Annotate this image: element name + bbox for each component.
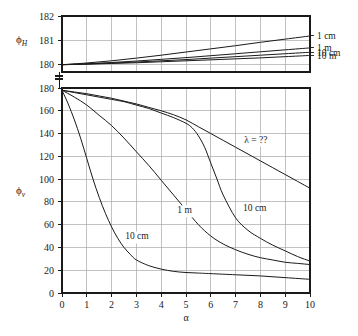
x-tick-label: 10	[305, 299, 315, 310]
right-label-3: 10 m	[317, 51, 337, 61]
annotation-1: 10 cm	[243, 203, 267, 213]
phi-vs-alpha-chart: 1801811820204060801001201401601800123456…	[0, 0, 358, 336]
x-tick-label: 2	[109, 299, 114, 310]
y-tick-label-upper: 180	[39, 59, 54, 70]
y-tick-label-lower: 80	[44, 196, 54, 207]
y-tick-label-lower: 140	[39, 128, 54, 139]
right-label-0: 1 cm	[317, 31, 336, 41]
y-tick-label-lower: 20	[44, 265, 54, 276]
y-tick-label-upper: 182	[39, 11, 54, 22]
y-tick-label-lower: 40	[44, 242, 54, 253]
x-tick-label: 6	[208, 299, 213, 310]
annotation-0: λ = ??	[244, 135, 267, 145]
x-tick-label: 4	[159, 299, 164, 310]
chart-figure: 1801811820204060801001201401601800123456…	[0, 0, 358, 336]
x-tick-label: 0	[60, 299, 65, 310]
y-tick-label-lower: 180	[39, 83, 54, 94]
y-tick-label-lower: 60	[44, 219, 54, 230]
x-tick-label: 8	[258, 299, 263, 310]
y-tick-label-lower: 160	[39, 105, 54, 116]
y-tick-label-lower: 0	[49, 288, 54, 299]
annotation-2: 1 m	[177, 205, 192, 215]
x-tick-label: 9	[283, 299, 288, 310]
x-tick-label: 3	[134, 299, 139, 310]
x-axis-label: α	[183, 312, 189, 323]
annotation-3: 10 cm	[125, 231, 149, 241]
chart-background	[0, 0, 358, 336]
x-tick-label: 1	[84, 299, 89, 310]
x-tick-label: 5	[184, 299, 189, 310]
x-tick-label: 7	[233, 299, 238, 310]
y-tick-label-upper: 181	[39, 35, 54, 46]
y-tick-label-lower: 100	[39, 174, 54, 185]
y-tick-label-lower: 120	[39, 151, 54, 162]
